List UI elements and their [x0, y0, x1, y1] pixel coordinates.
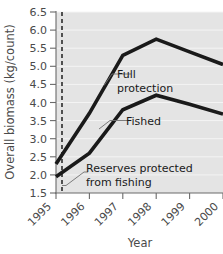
- annotation-reserves-line1: Reserves protected: [86, 162, 193, 175]
- y-tick-label: 5.0: [30, 60, 48, 73]
- x-tick-label: 1997: [92, 200, 121, 229]
- x-axis-title: Year: [127, 236, 153, 250]
- y-tick-label: 4.5: [30, 78, 48, 91]
- y-tick-label: 6.5: [30, 6, 48, 19]
- annotation-full-protection-line1: Full: [117, 68, 136, 81]
- annotation-reserves-line2: from fishing: [86, 176, 152, 189]
- y-tick-label: 2.0: [30, 169, 48, 182]
- x-tick-label: 1996: [59, 200, 88, 229]
- y-tick-label: 3.0: [30, 133, 48, 146]
- x-axis-ticks: [56, 193, 223, 199]
- y-tick-label: 3.5: [30, 115, 48, 128]
- y-tick-label: 6.0: [30, 24, 48, 37]
- y-tick-label: 2.5: [30, 151, 48, 164]
- x-tick-label: 1998: [125, 200, 154, 229]
- y-tick-label: 1.5: [30, 187, 48, 200]
- y-axis-ticks: [50, 12, 56, 193]
- y-tick-label: 4.0: [30, 97, 48, 110]
- annotation-fished-line1: Fished: [126, 115, 161, 128]
- x-tick-label: 1999: [159, 200, 188, 229]
- y-tick-label: 5.5: [30, 42, 48, 55]
- chart-container: 6.5 6.0 5.5 5.0 4.5 4.0 3.5 3.0 2.5 2.0 …: [0, 0, 223, 254]
- biomass-line-chart: 6.5 6.0 5.5 5.0 4.5 4.0 3.5 3.0 2.5 2.0 …: [0, 0, 223, 254]
- annotation-full-protection-line2: protection: [117, 82, 173, 95]
- x-tick-label: 1995: [25, 200, 54, 229]
- y-axis-tick-labels: 6.5 6.0 5.5 5.0 4.5 4.0 3.5 3.0 2.5 2.0 …: [30, 6, 48, 200]
- x-axis-tick-labels: 1995 1996 1997 1998 1999 2000: [25, 200, 221, 229]
- y-axis-title: Overall biomass (kg/count): [3, 24, 17, 179]
- x-tick-label: 2000: [192, 200, 221, 229]
